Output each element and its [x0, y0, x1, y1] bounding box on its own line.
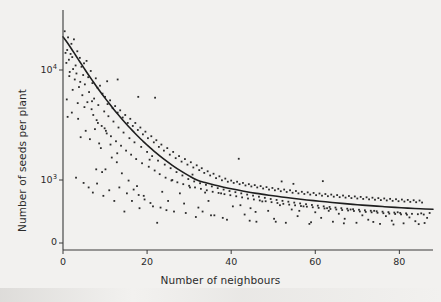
data-point — [423, 214, 425, 216]
data-point — [326, 207, 328, 209]
data-point — [88, 91, 90, 93]
data-point — [406, 214, 408, 216]
data-point — [113, 200, 115, 202]
data-point — [69, 71, 71, 73]
data-point — [308, 223, 310, 225]
axis-spines — [63, 10, 433, 250]
data-point — [120, 145, 122, 147]
data-point — [67, 116, 69, 118]
data-point — [232, 205, 234, 207]
y-axis-title: Number of seeds per plant — [16, 89, 28, 232]
data-point — [213, 214, 215, 216]
data-point — [86, 60, 88, 62]
data-point — [249, 220, 251, 222]
data-point — [182, 183, 184, 185]
data-point — [317, 205, 319, 207]
data-point — [261, 201, 263, 203]
data-point — [163, 150, 165, 152]
data-point — [178, 155, 180, 157]
data-point — [244, 214, 246, 216]
data-point — [240, 192, 242, 194]
data-point — [97, 104, 99, 106]
data-point — [347, 210, 349, 212]
data-point — [356, 198, 358, 200]
data-point — [94, 128, 96, 130]
data-point — [264, 197, 266, 199]
data-point — [258, 196, 260, 198]
data-point — [76, 50, 78, 52]
data-point — [117, 79, 119, 81]
data-point — [421, 202, 423, 204]
data-point — [101, 171, 103, 173]
data-point — [287, 201, 289, 203]
data-point — [313, 192, 315, 194]
data-point — [85, 130, 87, 132]
data-point — [362, 198, 364, 200]
data-point — [239, 183, 241, 185]
data-point — [207, 170, 209, 172]
data-point — [397, 211, 399, 213]
data-point — [134, 141, 136, 143]
data-point — [328, 210, 330, 212]
data-point — [113, 121, 115, 123]
data-point — [91, 108, 93, 110]
data-point — [197, 207, 199, 209]
data-point — [344, 218, 346, 220]
data-point — [388, 213, 390, 215]
data-point — [332, 221, 334, 223]
data-point — [184, 158, 186, 160]
data-point — [147, 137, 149, 139]
data-point — [295, 190, 297, 192]
data-point — [229, 194, 231, 196]
data-point — [160, 144, 162, 146]
data-point — [407, 199, 409, 201]
data-point — [345, 197, 347, 199]
data-point — [171, 179, 173, 181]
data-point — [84, 83, 86, 85]
data-point — [164, 164, 166, 166]
data-point — [298, 192, 300, 194]
data-point — [192, 174, 194, 176]
data-point — [167, 200, 169, 202]
data-point — [213, 173, 215, 175]
data-point — [64, 30, 66, 32]
data-point — [204, 192, 206, 194]
data-point — [330, 194, 332, 196]
data-point — [327, 195, 329, 197]
data-point — [95, 77, 97, 79]
data-point — [235, 195, 237, 197]
data-point — [137, 96, 139, 98]
data-point — [241, 196, 243, 198]
data-point — [293, 202, 295, 204]
data-point — [306, 206, 308, 208]
data-point — [73, 38, 75, 40]
data-point — [262, 188, 264, 190]
data-point — [281, 181, 283, 183]
data-point — [256, 187, 258, 189]
data-point — [297, 215, 299, 217]
data-point — [305, 203, 307, 205]
data-point — [315, 194, 317, 196]
data-point — [392, 200, 394, 202]
data-point — [89, 138, 91, 140]
data-point — [83, 62, 85, 64]
data-point — [114, 105, 116, 107]
data-point — [343, 222, 345, 224]
data-point — [361, 214, 363, 216]
data-point — [93, 98, 95, 100]
data-point — [335, 209, 337, 211]
data-point — [196, 164, 198, 166]
data-point — [77, 102, 79, 104]
data-point — [230, 180, 232, 182]
data-point — [294, 204, 296, 206]
data-point — [403, 222, 405, 224]
data-point — [190, 161, 192, 163]
data-point — [72, 89, 74, 91]
data-point — [273, 218, 275, 220]
data-point — [154, 97, 156, 99]
data-point — [156, 222, 158, 224]
data-point — [86, 101, 88, 103]
x-axis-title: Number of neighbours — [0, 274, 441, 286]
data-point — [90, 70, 92, 72]
data-point — [116, 161, 118, 163]
